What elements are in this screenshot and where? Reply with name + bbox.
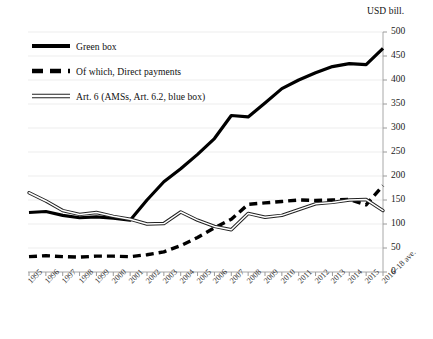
y-tick-label: 250 [391, 146, 405, 156]
legend-label-green-box: Green box [76, 41, 117, 52]
chart-container: USD bill. 050100150200250300350400450500… [0, 0, 433, 339]
y-tick-label: 500 [391, 26, 405, 36]
y-tick-label: 150 [391, 194, 405, 204]
legend-item-art6: Art. 6 (AMSs, Art. 6.2, blue box) [31, 90, 205, 102]
legend-label-direct-payments: Of which, Direct payments [76, 66, 181, 77]
legend-item-green-box: Green box [31, 40, 117, 52]
y-tick-label: 400 [391, 74, 405, 84]
y-tick-label: 200 [391, 170, 405, 180]
y-tick-label: 100 [391, 218, 405, 228]
solid-thick-swatch [31, 40, 71, 52]
dashed-thick-swatch [31, 65, 71, 77]
legend-label-art6: Art. 6 (AMSs, Art. 6.2, blue box) [76, 91, 205, 102]
double-thin-swatch [31, 90, 71, 102]
y-tick-label: 50 [391, 242, 401, 252]
y-tick-label: 350 [391, 98, 405, 108]
y-tick-label: 300 [391, 122, 405, 132]
y-tick-label: 450 [391, 50, 405, 60]
legend-item-direct-payments: Of which, Direct payments [31, 65, 181, 77]
y-axis-ticks [383, 32, 387, 272]
series-line-of-which-direct-payments [29, 186, 383, 258]
